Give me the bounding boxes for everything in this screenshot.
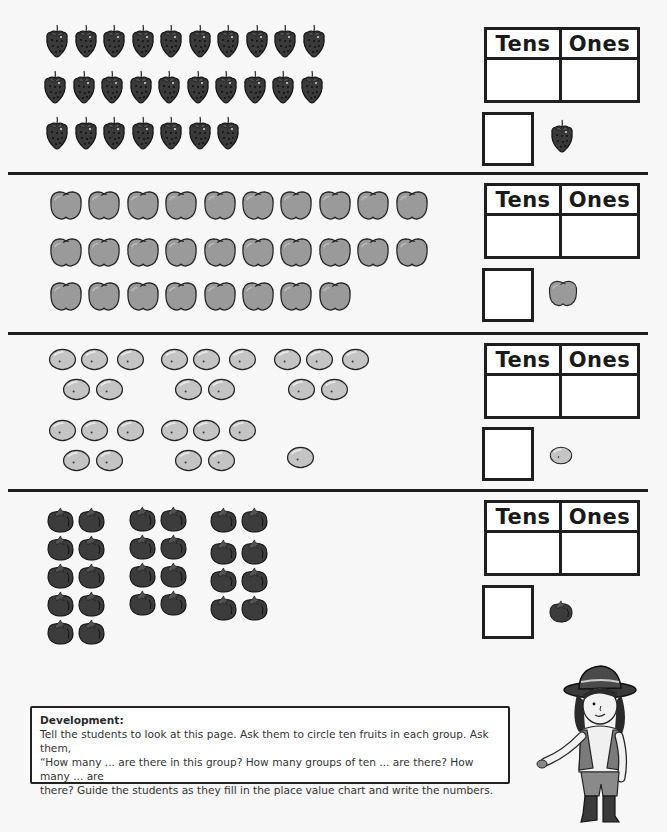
tomato-icon[interactable] [240, 539, 269, 565]
strawberry-icon[interactable] [242, 70, 268, 104]
tens-answer-cell[interactable] [487, 60, 562, 102]
apple-icon[interactable] [317, 280, 353, 312]
lemon-icon[interactable] [116, 419, 145, 442]
apple-icon[interactable] [125, 280, 161, 312]
tomato-icon[interactable] [159, 534, 188, 560]
apple-icon[interactable] [48, 280, 84, 312]
apple-icon[interactable] [202, 236, 238, 268]
apple-icon[interactable] [48, 236, 84, 268]
lemon-icon[interactable] [80, 348, 109, 371]
tomato-icon[interactable] [209, 539, 238, 565]
strawberry-icon[interactable] [101, 24, 127, 58]
strawberry-icon[interactable] [42, 70, 68, 104]
lemon-icon[interactable] [62, 449, 91, 472]
apple-icon[interactable] [86, 236, 122, 268]
strawberry-icon[interactable] [272, 24, 298, 58]
apple-icon[interactable] [125, 236, 161, 268]
tomato-icon[interactable] [77, 619, 106, 645]
lemon-icon[interactable] [192, 419, 221, 442]
apple-icon[interactable] [355, 236, 391, 268]
strawberry-icon[interactable] [156, 70, 182, 104]
tomato-icon[interactable] [46, 535, 75, 561]
lemon-icon[interactable] [192, 348, 221, 371]
lemon-icon[interactable] [174, 449, 203, 472]
tomato-icon[interactable] [240, 595, 269, 621]
apple-icon[interactable] [278, 280, 314, 312]
strawberry-icon[interactable] [158, 116, 184, 150]
strawberry-icon[interactable] [215, 24, 241, 58]
tomato-icon[interactable] [77, 535, 106, 561]
strawberry-icon[interactable] [213, 70, 239, 104]
ones-answer-cell[interactable] [562, 376, 637, 418]
strawberry-icon[interactable] [185, 70, 211, 104]
lemon-icon[interactable] [207, 378, 236, 401]
lemon-icon[interactable] [116, 348, 145, 371]
strawberry-icon[interactable] [187, 24, 213, 58]
tens-answer-cell[interactable] [487, 216, 562, 258]
tens-answer-cell[interactable] [487, 533, 562, 575]
lemon-icon[interactable] [160, 348, 189, 371]
tomato-icon[interactable] [240, 507, 269, 533]
strawberry-icon[interactable] [299, 70, 325, 104]
tens-answer-cell[interactable] [487, 376, 562, 418]
tomato-icon[interactable] [159, 562, 188, 588]
tomato-icon[interactable] [46, 507, 75, 533]
tomato-icon[interactable] [209, 507, 238, 533]
apple-icon[interactable] [240, 280, 276, 312]
strawberry-icon[interactable] [130, 116, 156, 150]
strawberry-icon[interactable] [73, 24, 99, 58]
strawberry-icon[interactable] [73, 116, 99, 150]
strawberry-icon[interactable] [99, 70, 125, 104]
apple-icon[interactable] [394, 189, 430, 221]
tomato-icon[interactable] [77, 591, 106, 617]
tomato-icon[interactable] [128, 562, 157, 588]
tomato-icon[interactable] [77, 563, 106, 589]
apple-icon[interactable] [86, 189, 122, 221]
lemon-icon[interactable] [80, 419, 109, 442]
lemon-icon[interactable] [287, 378, 316, 401]
apple-icon[interactable] [202, 189, 238, 221]
tomato-icon[interactable] [209, 595, 238, 621]
tomato-icon[interactable] [46, 619, 75, 645]
tomato-icon[interactable] [128, 506, 157, 532]
lemon-icon[interactable] [286, 446, 315, 469]
strawberry-icon[interactable] [44, 116, 70, 150]
lemon-icon[interactable] [174, 378, 203, 401]
apple-icon[interactable] [317, 236, 353, 268]
apple-icon[interactable] [240, 236, 276, 268]
apple-icon[interactable] [86, 280, 122, 312]
strawberry-icon[interactable] [187, 116, 213, 150]
tomato-icon[interactable] [159, 590, 188, 616]
number-answer-box[interactable] [482, 585, 534, 639]
lemon-icon[interactable] [341, 348, 370, 371]
apple-icon[interactable] [163, 280, 199, 312]
tomato-icon[interactable] [209, 567, 238, 593]
apple-icon[interactable] [394, 236, 430, 268]
strawberry-icon[interactable] [158, 24, 184, 58]
apple-icon[interactable] [125, 189, 161, 221]
apple-icon[interactable] [163, 189, 199, 221]
ones-answer-cell[interactable] [562, 216, 637, 258]
apple-icon[interactable] [48, 189, 84, 221]
lemon-icon[interactable] [95, 378, 124, 401]
number-answer-box[interactable] [482, 268, 534, 322]
tomato-icon[interactable] [77, 507, 106, 533]
strawberry-icon[interactable] [301, 24, 327, 58]
apple-icon[interactable] [278, 236, 314, 268]
apple-icon[interactable] [317, 189, 353, 221]
lemon-icon[interactable] [305, 348, 334, 371]
lemon-icon[interactable] [228, 348, 257, 371]
lemon-icon[interactable] [228, 419, 257, 442]
strawberry-icon[interactable] [215, 116, 241, 150]
lemon-icon[interactable] [320, 378, 349, 401]
strawberry-icon[interactable] [128, 70, 154, 104]
lemon-icon[interactable] [62, 378, 91, 401]
tomato-icon[interactable] [159, 506, 188, 532]
tomato-icon[interactable] [46, 563, 75, 589]
strawberry-icon[interactable] [270, 70, 296, 104]
tomato-icon[interactable] [46, 591, 75, 617]
tomato-icon[interactable] [240, 567, 269, 593]
lemon-icon[interactable] [48, 419, 77, 442]
strawberry-icon[interactable] [71, 70, 97, 104]
lemon-icon[interactable] [95, 449, 124, 472]
